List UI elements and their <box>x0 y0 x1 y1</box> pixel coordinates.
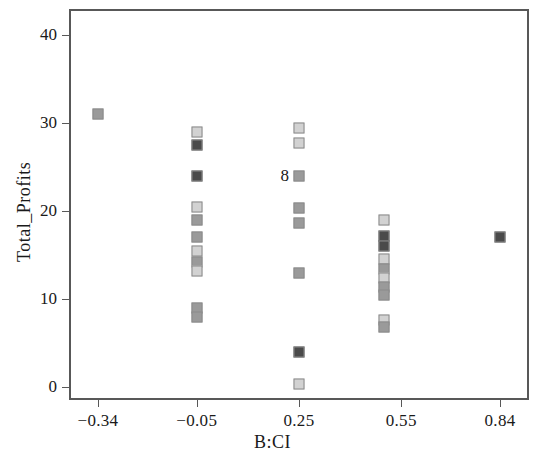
x-tick-label: 0.84 <box>485 411 516 431</box>
data-point <box>294 170 305 181</box>
data-point <box>379 322 390 333</box>
y-tick-mark <box>62 211 69 212</box>
data-point <box>294 203 305 214</box>
data-point <box>294 122 305 133</box>
data-point <box>379 290 390 301</box>
data-point <box>294 346 305 357</box>
data-point <box>191 245 202 256</box>
y-tick-mark <box>62 299 69 300</box>
data-point <box>495 232 506 243</box>
data-point <box>191 214 202 225</box>
y-tick-mark <box>62 35 69 36</box>
y-tick-label: 0 <box>15 377 57 397</box>
x-tick-mark <box>401 400 402 407</box>
data-point <box>294 218 305 229</box>
x-tick-mark <box>98 400 99 407</box>
y-axis-title: Total_Profits <box>14 162 35 262</box>
y-tick-label: 40 <box>15 25 57 45</box>
data-point <box>294 137 305 148</box>
x-tick-label: 0.55 <box>386 411 417 431</box>
data-point <box>294 267 305 278</box>
data-point <box>191 232 202 243</box>
data-point <box>191 127 202 138</box>
x-axis-title: B:CI <box>0 432 545 453</box>
scatter-plot-figure: −0.34−0.050.250.550.84 010203040 8 B:CI … <box>0 0 545 459</box>
data-point <box>191 170 202 181</box>
y-tick-mark <box>62 387 69 388</box>
y-tick-label: 30 <box>15 113 57 133</box>
y-tick-label: 10 <box>15 289 57 309</box>
y-tick-mark <box>62 123 69 124</box>
x-tick-label: 0.25 <box>284 411 315 431</box>
data-point <box>191 201 202 212</box>
x-tick-mark <box>500 400 501 407</box>
data-point <box>379 214 390 225</box>
data-point <box>379 230 390 241</box>
data-point <box>294 379 305 390</box>
data-point <box>191 311 202 322</box>
data-point <box>191 265 202 276</box>
data-point <box>191 140 202 151</box>
x-tick-label: −0.05 <box>176 411 217 431</box>
x-tick-mark <box>197 400 198 407</box>
x-tick-label: −0.34 <box>78 411 119 431</box>
x-tick-mark <box>299 400 300 407</box>
data-point <box>379 241 390 252</box>
point-annotation: 8 <box>281 166 294 186</box>
data-point <box>92 109 103 120</box>
